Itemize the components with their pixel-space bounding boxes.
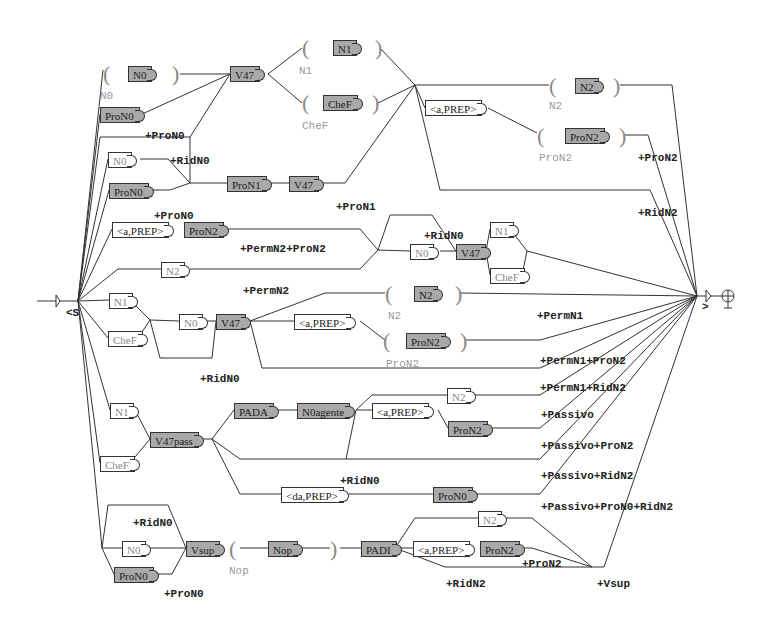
graph-box[interactable]: ProN2: [565, 128, 605, 144]
graph-box[interactable]: V47: [230, 66, 260, 82]
comment-label: ProN2: [539, 152, 572, 164]
output-label: +Passivo+RidN2: [541, 470, 633, 482]
graph-box[interactable]: Nop: [268, 541, 298, 557]
output-label: +ProN2: [522, 558, 562, 570]
output-label: +RidN2: [638, 207, 678, 219]
comment-label: CheF: [302, 120, 328, 132]
graph-box[interactable]: N1: [110, 403, 134, 419]
graph-box[interactable]: N2: [447, 388, 471, 404]
graph-box[interactable]: V47: [216, 314, 246, 330]
graph-box[interactable]: CheF: [100, 456, 135, 472]
graph-box[interactable]: CheF: [108, 331, 143, 347]
graph-box[interactable]: PADI: [361, 541, 397, 557]
output-label: +Passivo+ProN2: [541, 440, 633, 452]
graph-box[interactable]: V47: [289, 176, 319, 192]
graph-box[interactable]: N1: [333, 40, 357, 56]
output-label: +ProN1: [336, 201, 376, 213]
paren: ): [460, 330, 467, 352]
output-label: +ProN0: [145, 130, 185, 142]
graph-box[interactable]: N1: [109, 293, 133, 309]
graph-box[interactable]: <a,PREP>: [413, 541, 470, 557]
output-label: +PermN1: [537, 310, 583, 322]
comment-label: N2: [549, 100, 562, 112]
paren: (: [549, 75, 556, 97]
graph-box[interactable]: ProN1: [227, 176, 267, 192]
output-label: +RidN0: [200, 373, 240, 385]
graph-box[interactable]: ProN2: [480, 541, 520, 557]
output-label: +RidN0: [340, 475, 380, 487]
comment-label: N2: [388, 310, 401, 322]
paren: ): [372, 92, 379, 114]
output-label: +Passivo+ProN0+RidN2: [541, 501, 673, 513]
graph-box[interactable]: CheF: [490, 268, 525, 284]
graph-box[interactable]: PADA: [234, 403, 274, 419]
paren: (: [229, 538, 236, 560]
output-label: +RidN0: [133, 517, 173, 529]
graph-box[interactable]: ProN0: [433, 487, 473, 503]
output-label: +ProN0: [154, 210, 194, 222]
graph-box[interactable]: <a,PREP>: [425, 100, 482, 116]
output-label: +RidN0: [170, 155, 210, 167]
graph-box[interactable]: N1: [490, 222, 514, 238]
paren: ): [455, 283, 462, 305]
comment-label: ProN2: [386, 358, 419, 370]
graph-box[interactable]: ProN0: [109, 183, 149, 199]
graph-box[interactable]: <a,PREP>: [372, 403, 429, 419]
output-label: +PermN1+RidN2: [540, 382, 626, 394]
graph-box[interactable]: N0: [410, 244, 434, 260]
output-label: +PermN2: [243, 285, 289, 297]
graph-box[interactable]: ProN0: [100, 107, 140, 123]
graph-box[interactable]: ProN0: [114, 567, 154, 583]
graph-box[interactable]: N0: [122, 541, 146, 557]
start-node-label: <S: [66, 307, 79, 319]
paren: (: [537, 125, 544, 147]
graph-box[interactable]: Vsup: [186, 541, 220, 557]
output-label: +ProN2: [638, 152, 678, 164]
output-label: +PermN1+ProN2: [540, 355, 626, 367]
graph-box[interactable]: N0agente: [297, 403, 350, 419]
output-label: +RidN2: [446, 578, 486, 590]
paren: ): [330, 538, 337, 560]
graph-box[interactable]: V47: [456, 244, 486, 260]
output-label: +Vsup: [597, 578, 630, 590]
comment-label: N1: [299, 65, 312, 77]
paren: (: [383, 330, 390, 352]
graph-box[interactable]: N2: [575, 78, 599, 94]
paren: ): [375, 37, 382, 59]
output-label: +Passivo: [541, 409, 594, 421]
graph-box[interactable]: N0: [128, 66, 152, 82]
graph-box[interactable]: CheF: [323, 95, 358, 111]
paren: (: [302, 92, 309, 114]
comment-label: N0: [100, 90, 113, 102]
graph-box[interactable]: <a,PREP>: [294, 314, 351, 330]
graph-box[interactable]: N0: [108, 152, 132, 168]
graph-box[interactable]: ProN2: [406, 333, 446, 349]
paren: (: [302, 37, 309, 59]
paren: ): [613, 75, 620, 97]
graph-box[interactable]: <a,PREP>: [112, 222, 169, 238]
output-label: +RidN0: [424, 230, 464, 242]
paren: ): [172, 63, 179, 85]
paren: (: [103, 63, 110, 85]
graph-box[interactable]: ProN2: [448, 421, 488, 437]
paren: ): [619, 125, 626, 147]
comment-label: Nop: [229, 565, 249, 577]
graph-box[interactable]: N2: [414, 286, 438, 302]
graph-box[interactable]: N0: [179, 314, 203, 330]
graph-box[interactable]: N2: [161, 262, 185, 278]
graph-box[interactable]: ProN2: [184, 222, 224, 238]
output-label: +ProN0: [164, 588, 204, 600]
end-node-label: >: [702, 301, 709, 313]
graph-box[interactable]: <da,PREP>: [281, 487, 344, 503]
output-label: +PermN2+ProN2: [240, 243, 326, 255]
graph-box[interactable]: V47pass: [150, 432, 199, 448]
graph-box[interactable]: N2: [478, 511, 502, 527]
paren: (: [385, 283, 392, 305]
